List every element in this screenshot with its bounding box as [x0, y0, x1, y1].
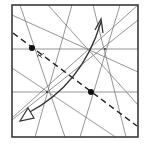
arrowhead-hollow-icon [20, 108, 34, 121]
fold-arrow-curve [28, 22, 101, 113]
hub-left-icon [46, 91, 48, 93]
reference-dot-lower-right [88, 89, 94, 95]
crease-right-hub-diag-a [12, 15, 138, 72]
arrowhead-open-icon [95, 19, 103, 33]
reference-dot-upper-left [29, 45, 35, 51]
hub-right-icon [104, 48, 106, 50]
crease-diagram [0, 0, 150, 147]
crease-left-hub-diag-b [12, 5, 138, 118]
crease-lines [12, 5, 138, 140]
crease-left-hub-steep-b [35, 5, 72, 137]
